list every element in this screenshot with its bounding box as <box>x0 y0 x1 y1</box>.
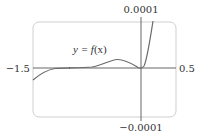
function-plot: 0.0001 −0.0001 −1.5 0.5 y = f(x) <box>0 0 200 138</box>
x-max-label: 0.5 <box>179 63 195 74</box>
viewing-window-frame <box>33 22 176 117</box>
x-min-label: −1.5 <box>6 63 30 74</box>
annotation-prefix: y = <box>72 43 91 55</box>
annotation-arg: (x) <box>94 43 107 56</box>
y-max-label: 0.0001 <box>124 4 159 15</box>
y-min-label: −0.0001 <box>119 122 162 133</box>
function-annotation: y = f(x) <box>72 43 107 56</box>
